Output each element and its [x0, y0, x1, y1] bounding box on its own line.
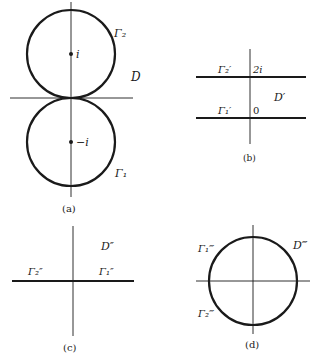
- label-gamma2-double-prime: Γ₂″: [27, 266, 43, 277]
- label-gamma2-prime: Γ₂′: [217, 64, 232, 75]
- label-gamma1-triple-prime: Γ₁‴: [197, 243, 215, 254]
- label-0: 0: [253, 105, 259, 116]
- label-gamma2-triple-prime: Γ₂‴: [197, 308, 215, 319]
- panel-c: D″ Γ₂″ Γ₁″ (c): [12, 226, 134, 353]
- caption-d: (d): [245, 339, 259, 350]
- label-minus-i: −i: [76, 136, 89, 149]
- label-gamma1: Γ₁: [114, 167, 127, 180]
- label-gamma1-double-prime: Γ₁″: [98, 266, 114, 277]
- panel-b: Γ₂′ 2i D′ Γ₁′ 0 (b): [196, 49, 306, 163]
- conformal-map-figure: i −i Γ₂ D Γ₁ (a) Γ₂′ 2i D′ Γ₁′ 0 (b) D″ …: [0, 0, 319, 358]
- label-gamma1-prime: Γ₁′: [217, 105, 232, 116]
- label-i: i: [76, 48, 80, 61]
- label-region-D-triple-prime: D‴: [292, 239, 308, 252]
- label-region-D: D: [130, 70, 141, 84]
- caption-a: (a): [62, 203, 76, 214]
- label-gamma2: Γ₂: [113, 27, 126, 40]
- point-i: [69, 52, 73, 56]
- label-region-D-double-prime: D″: [100, 240, 115, 253]
- panel-a: i −i Γ₂ D Γ₁ (a): [10, 2, 141, 214]
- caption-b: (b): [243, 153, 256, 163]
- caption-c: (c): [63, 342, 77, 353]
- panel-d: Γ₁‴ D‴ Γ₂‴ (d): [196, 225, 310, 350]
- point-minus-i: [69, 140, 73, 144]
- label-region-D-prime: D′: [273, 91, 286, 104]
- label-2i: 2i: [252, 64, 263, 75]
